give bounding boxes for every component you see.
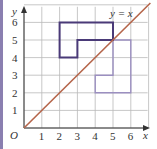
x-tick-label: 2 [57,130,63,142]
x-tick-label: 1 [39,130,45,142]
y-tick-label: 2 [12,87,18,99]
y-tick-label: 3 [12,69,18,81]
x-tick-label: 6 [128,130,134,142]
line-label: y = x [109,7,133,19]
y-tick-label: 4 [12,52,18,64]
y-axis-arrow-icon [21,6,27,13]
y-axis-label: y [11,5,17,17]
x-axis-label: x [142,129,148,141]
x-tick-label: 3 [74,130,80,142]
x-tick-label: 5 [110,130,116,142]
origin-label: O [10,129,18,141]
x-tick-label: 4 [92,130,98,142]
y-tick-label: 1 [12,104,18,116]
y-tick-label: 5 [12,34,18,46]
y-tick-label: 6 [12,16,18,28]
coordinate-grid-diagram: 123456123456 y = x O x y [0,0,157,149]
